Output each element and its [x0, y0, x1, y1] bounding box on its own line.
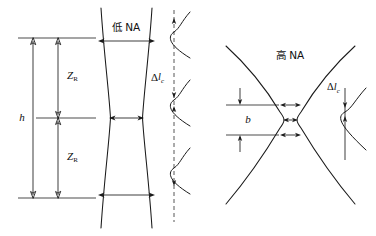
low-na-width-arrow-waist — [109, 116, 144, 121]
delta-arrow-mid-up-low — [172, 92, 176, 98]
dimension-h — [31, 38, 36, 198]
high-na-beam-left — [226, 46, 284, 204]
label-h: h — [19, 111, 25, 123]
dimension-z-rayleigh-upper — [56, 38, 61, 118]
high-na-panel: b 高 NA — [226, 46, 366, 204]
figure-root: h ZR ZR 低 NA — [0, 0, 376, 236]
dimension-z-rayleigh-lower — [56, 118, 61, 198]
label-delta-lc-high-na: Δlc — [327, 81, 341, 94]
label-b: b — [245, 113, 251, 125]
label-zr-upper: ZR — [67, 69, 78, 83]
label-zr-lower: ZR — [67, 150, 78, 164]
heading-low-na: 低 NA — [112, 21, 141, 33]
high-na-width-arrow-top — [280, 103, 301, 107]
low-na-width-arrow-bottom — [98, 193, 155, 198]
label-delta-lc-low-na: Δclc — [151, 71, 165, 85]
low-na-profile-peak-1 — [170, 12, 190, 58]
delta-arrow-top-low — [172, 18, 176, 24]
high-na-width-arrow-bottom — [280, 133, 301, 137]
low-na-profile-peak-3 — [170, 148, 190, 194]
low-na-profile-peak-2 — [170, 80, 190, 126]
dimension-b — [238, 88, 242, 152]
high-na-beam-right — [297, 46, 355, 204]
beam-comparison-diagram: h ZR ZR 低 NA — [0, 0, 376, 236]
heading-high-na: 高 NA — [276, 49, 305, 61]
low-na-panel: h ZR ZR 低 NA — [18, 8, 190, 228]
high-na-width-arrow-waist — [283, 118, 298, 122]
low-na-width-arrow-top — [98, 39, 155, 44]
